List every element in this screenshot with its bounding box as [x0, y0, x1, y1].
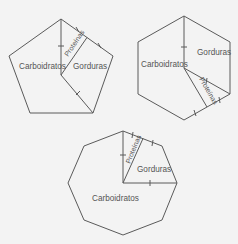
- diagram-canvas: Carboidratos Gorduras Proteínas Gorduras…: [0, 0, 238, 244]
- pentagon-label-carboidratos: Carboidratos: [19, 62, 66, 71]
- pentagon-diagram: Carboidratos Gorduras Proteínas: [9, 19, 113, 113]
- hexagon-label-proteinas: Proteínas: [198, 76, 219, 106]
- hexagon-diagram: Gorduras Carboidratos Proteínas: [138, 16, 231, 120]
- hexagon-label-gorduras: Gorduras: [197, 48, 231, 57]
- octagon-tick: [132, 132, 133, 138]
- pentagon-label-gorduras: Gorduras: [73, 62, 107, 71]
- hexagon-label-carboidratos: Carboidratos: [141, 60, 188, 69]
- octagon-diagram: Gorduras Carboidratos Proteínas: [68, 131, 177, 235]
- octagon-label-gorduras: Gorduras: [137, 165, 171, 174]
- pentagon-label-proteinas: Proteínas: [63, 28, 86, 57]
- octagon-label-carboidratos: Carboidratos: [92, 194, 139, 203]
- octagon-tick: [152, 140, 153, 146]
